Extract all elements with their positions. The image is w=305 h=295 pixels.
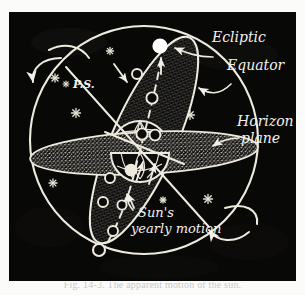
figure-root: Ecliptic Equator Horizon plane Sun's yea… xyxy=(0,0,305,295)
label-suns-motion-line2: yearly motion xyxy=(130,221,221,236)
figure-caption-text: Fig. 14-3. The apparent motion of the su… xyxy=(0,282,305,290)
label-horizon-plane-line2: plane xyxy=(241,130,280,146)
label-ecliptic: Ecliptic xyxy=(211,29,266,45)
celestial-sphere-diagram: Ecliptic Equator Horizon plane Sun's yea… xyxy=(9,12,296,281)
label-horizon-plane-line1: Horizon xyxy=(236,113,294,129)
sun-disc xyxy=(152,38,167,53)
figure-caption: Fig. 14-3. The apparent motion of the su… xyxy=(0,282,305,295)
label-equator: Equator xyxy=(226,57,286,73)
illustration-panel: Ecliptic Equator Horizon plane Sun's yea… xyxy=(9,12,296,281)
label-suns-motion-line1: Sun's xyxy=(138,205,174,220)
label-pole-star: P.S. xyxy=(72,78,95,91)
